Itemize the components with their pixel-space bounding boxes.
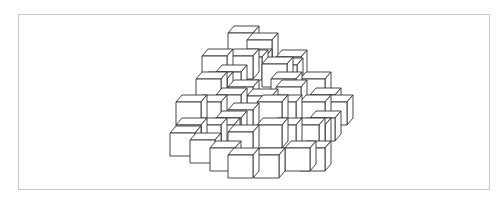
cube: [257, 118, 288, 148]
cube: [228, 148, 259, 178]
cube: [285, 141, 316, 171]
cube-stack-diagram: [0, 0, 499, 204]
